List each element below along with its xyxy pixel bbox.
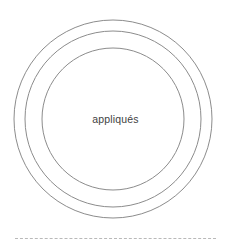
center-label: appliqués (0, 113, 231, 126)
dashed-divider (15, 238, 216, 239)
figure-canvas: appliqués (0, 0, 231, 251)
